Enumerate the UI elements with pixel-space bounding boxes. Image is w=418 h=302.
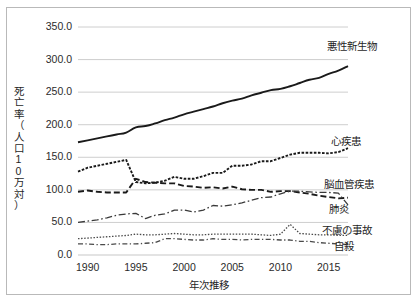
y-tick-label: 250.0 — [20, 85, 72, 97]
y-tick-label: 150.0 — [20, 150, 72, 162]
series-line-1 — [78, 148, 348, 183]
y-tick-label: 100.0 — [20, 183, 72, 195]
series-label-2: 脳血管疾患 — [324, 176, 374, 191]
x-tick-label: 1990 — [66, 261, 110, 273]
series-label-5: 自殺 — [334, 238, 354, 253]
series-line-3 — [78, 191, 348, 222]
series-line-5 — [78, 239, 348, 245]
gridlines — [78, 27, 348, 255]
y-tick-label: 300.0 — [20, 53, 72, 65]
y-axis-label-char: 万 — [10, 177, 27, 188]
x-tick-label: 2010 — [259, 261, 303, 273]
chart-figure: 0.050.0100.0150.0200.0250.0300.0350.0 19… — [0, 0, 418, 302]
series-label-3: 肺炎 — [329, 201, 349, 216]
series-line-2 — [78, 179, 348, 199]
y-tick-label: 50.0 — [20, 215, 72, 227]
series-label-4: 不慮の事故 — [322, 222, 372, 237]
x-tick-label: 2015 — [307, 261, 351, 273]
y-tick-label: 0.0 — [20, 248, 72, 260]
y-axis-label-char: ） — [10, 200, 27, 211]
series-line-4 — [78, 224, 348, 238]
series-label-0: 悪性新生物 — [327, 38, 377, 53]
series-line-0 — [78, 66, 348, 142]
series-label-1: 心疾患 — [331, 133, 361, 148]
y-tick-label: 350.0 — [20, 20, 72, 32]
x-tick-label: 2000 — [162, 261, 206, 273]
y-axis-label: 死亡率（人口10万対） — [10, 86, 27, 211]
series-lines — [78, 66, 348, 244]
y-tick-label: 200.0 — [20, 118, 72, 130]
y-axis-label-char: （ — [10, 120, 27, 131]
x-axis-label: 年次推移 — [0, 277, 418, 292]
x-tick-label: 2005 — [210, 261, 254, 273]
x-tick-label: 1995 — [114, 261, 158, 273]
